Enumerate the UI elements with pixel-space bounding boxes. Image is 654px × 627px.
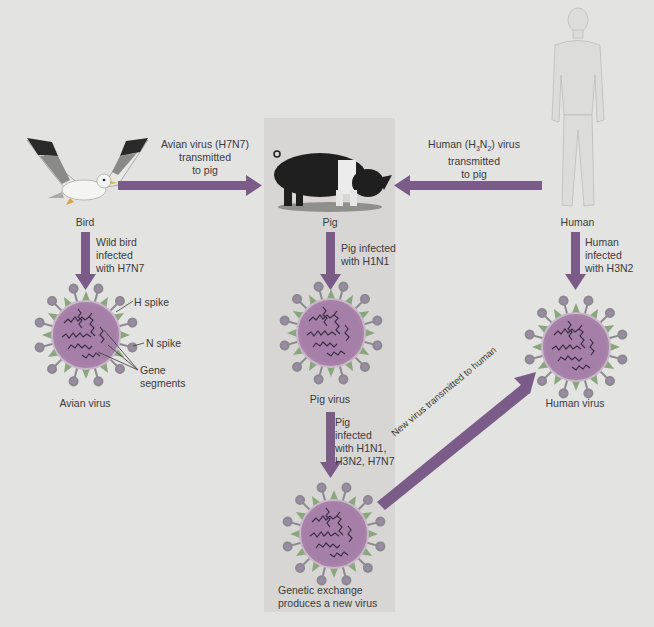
coinfection-line3: with H1N1, <box>335 442 395 455</box>
bird-infection-line1: Wild bird <box>96 236 144 249</box>
gene-segments-line1: Gene <box>140 364 186 377</box>
diagram: Avian virus (H7N7) transmitted to pig Hu… <box>0 0 654 627</box>
new-virus-line2: produces a new virus <box>278 597 377 610</box>
bird-illustration <box>27 138 148 205</box>
bird-to-pig-label: Avian virus (H7N7) transmitted to pig <box>150 138 260 177</box>
human-infection-label: Human infected with H3N2 <box>585 236 633 275</box>
pig-infection-line2: with H1N1 <box>341 255 396 268</box>
pig-label: Pig <box>305 216 355 229</box>
pig-virus-label: Pig virus <box>290 393 370 406</box>
human-infection-line1: Human <box>585 236 633 249</box>
avian-virus-icon <box>35 284 138 387</box>
coinfection-line4: H3N2, H7N7 <box>335 455 395 468</box>
avian-virus-label: Avian virus <box>40 397 130 410</box>
bird-infection-label: Wild bird infected with H7N7 <box>96 236 144 275</box>
gene-segments-line2: segments <box>140 377 186 390</box>
human-label: Human <box>550 216 605 229</box>
pig-virus-icon <box>280 282 383 385</box>
human-to-pig-line3: to pig <box>413 168 535 181</box>
human-infection-line3: with H3N2 <box>585 262 633 275</box>
human-virus-icon <box>525 296 628 399</box>
coinfection-label: Pig infected with H1N1, H3N2, H7N7 <box>335 416 395 468</box>
new-virus-icon <box>283 483 386 586</box>
pig-illustration <box>274 151 392 212</box>
bird-to-pig-line3: to pig <box>150 164 260 177</box>
diagram-graphics <box>0 0 654 627</box>
pig-infection-label: Pig infected with H1N1 <box>341 242 396 268</box>
coinfection-line2: infected <box>335 429 395 442</box>
n-spike-label: N spike <box>146 337 181 350</box>
bird-to-pig-line1: Avian virus (H7N7) <box>150 138 260 151</box>
human-illustration <box>552 8 604 206</box>
new-virus-label: Genetic exchange produces a new virus <box>278 584 377 610</box>
human-to-pig-line2: transmitted <box>413 155 535 168</box>
human-to-pig-label: Human (H3N2) virus transmitted to pig <box>413 138 535 181</box>
h-spike-label: H spike <box>134 296 169 309</box>
human-virus-label: Human virus <box>530 397 620 410</box>
human-to-pig-line1: Human (H3N2) virus <box>413 138 535 155</box>
coinfection-line1: Pig <box>335 416 395 429</box>
bird-infection-line2: infected <box>96 249 144 262</box>
bird-infection-line3: with H7N7 <box>96 262 144 275</box>
human-infection-line2: infected <box>585 249 633 262</box>
gene-segments-label: Gene segments <box>140 364 186 390</box>
bird-label: Bird <box>60 216 110 229</box>
bird-to-pig-line2: transmitted <box>150 151 260 164</box>
new-virus-line1: Genetic exchange <box>278 584 377 597</box>
pig-infection-line1: Pig infected <box>341 242 396 255</box>
